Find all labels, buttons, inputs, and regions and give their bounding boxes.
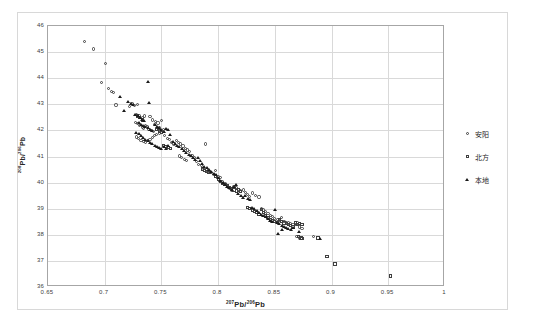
data-point — [273, 208, 277, 211]
legend-label: 安阳 — [475, 129, 489, 139]
data-point — [168, 133, 172, 136]
legend-marker-glyph — [466, 155, 469, 158]
data-point — [257, 195, 260, 198]
data-point — [300, 227, 303, 230]
y-axis-title-end: Pb — [19, 137, 26, 146]
x-tick-label-0.95: 0.95 — [381, 289, 394, 295]
data-point — [92, 47, 95, 50]
data-point — [312, 235, 315, 238]
data-point — [166, 128, 170, 131]
data-point — [146, 80, 150, 83]
data-point — [276, 232, 280, 235]
x-tick-label-0.65: 0.65 — [41, 289, 54, 295]
y-tick-label-41: 41 — [37, 153, 44, 159]
data-point — [169, 147, 172, 150]
data-point — [270, 220, 274, 223]
data-point — [164, 147, 168, 150]
y-tick-label-38: 38 — [37, 231, 44, 237]
data-point — [280, 228, 284, 231]
data-point — [147, 101, 151, 104]
y-tick-label-45: 45 — [37, 48, 44, 54]
data-point — [318, 237, 322, 240]
data-point — [142, 119, 146, 122]
legend-label: 北方 — [475, 152, 489, 162]
data-point — [114, 103, 117, 106]
data-point — [160, 119, 163, 122]
legend-marker-glyph — [466, 132, 469, 135]
x-axis-title-end: Pb — [255, 300, 265, 309]
x-tick-label-0.75: 0.75 — [154, 289, 167, 295]
chart-legend: 安阳北方本地 — [462, 122, 508, 191]
data-point — [104, 62, 107, 65]
data-point — [291, 226, 295, 229]
y-axis-title-mid: Pb/ — [19, 154, 26, 166]
data-point — [248, 198, 252, 201]
y-tick-label-42: 42 — [37, 126, 44, 132]
data-point — [118, 95, 122, 98]
x-tick-label-0.7: 0.7 — [99, 289, 108, 295]
y-tick-label-40: 40 — [37, 179, 44, 185]
x-axis-title-sup2: 206 — [247, 300, 255, 305]
y-axis-title: 208Pb/206Pb — [19, 137, 26, 174]
legend-item-square[interactable]: 北方 — [462, 145, 508, 168]
circle-marker-icon — [462, 128, 473, 139]
legend-item-circle[interactable]: 安阳 — [462, 122, 508, 145]
data-point — [83, 40, 86, 43]
data-point — [204, 142, 207, 145]
data-point — [389, 274, 392, 277]
y-tick-label-46: 46 — [37, 22, 44, 28]
data-point — [300, 237, 303, 240]
data-point — [234, 183, 238, 186]
y-axis-title-sup2: 206 — [17, 146, 22, 154]
data-point — [139, 139, 142, 142]
plot-area — [47, 25, 444, 286]
data-point — [131, 103, 135, 106]
triangle-marker-icon — [462, 174, 473, 185]
legend-item-triangle[interactable]: 本地 — [462, 168, 508, 191]
data-point — [185, 159, 188, 162]
x-axis-title: 207Pb/206Pb — [47, 300, 444, 309]
data-point — [136, 103, 139, 106]
data-point — [150, 129, 154, 132]
x-tick-label-0.8: 0.8 — [213, 289, 222, 295]
data-point — [333, 262, 336, 265]
y-tick-label-39: 39 — [37, 205, 44, 211]
data-point — [166, 144, 170, 147]
legend-label: 本地 — [475, 175, 489, 185]
data-point — [325, 255, 328, 258]
chart-root: 3637383940414243444546 0.650.70.750.80.8… — [0, 0, 535, 332]
square-marker-icon — [462, 151, 473, 162]
x-axis-title-mid: Pb/ — [234, 300, 246, 309]
data-point — [122, 109, 126, 112]
data-point — [300, 223, 303, 226]
legend-marker-glyph — [465, 178, 469, 181]
y-tick-label-44: 44 — [37, 74, 44, 80]
x-tick-label-0.85: 0.85 — [267, 289, 280, 295]
data-point — [135, 135, 138, 138]
data-point — [100, 81, 103, 84]
y-axis-title-sup1: 208 — [17, 165, 22, 173]
y-tick-label-43: 43 — [37, 100, 44, 106]
data-points-layer — [48, 26, 443, 285]
x-tick-label-1: 1 — [442, 289, 446, 295]
data-point — [162, 130, 166, 133]
data-point — [230, 188, 234, 191]
x-tick-label-0.9: 0.9 — [326, 289, 335, 295]
data-point — [297, 230, 301, 233]
data-point — [289, 228, 293, 231]
y-tick-label-37: 37 — [37, 257, 44, 263]
